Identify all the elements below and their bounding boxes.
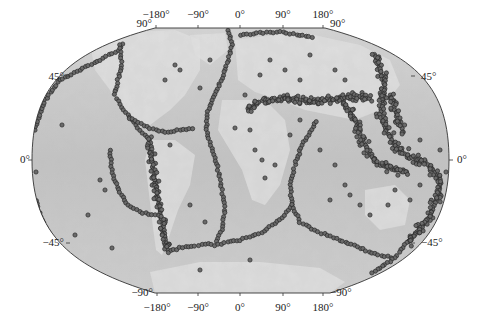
earthquake-dot — [110, 246, 114, 250]
earthquake-dot — [389, 100, 393, 104]
earthquake-dot — [198, 268, 202, 272]
earthquake-dot — [435, 169, 439, 173]
earthquake-dot — [45, 228, 49, 232]
earthquake-dot — [409, 244, 413, 248]
earthquake-dot — [368, 94, 372, 98]
earthquake-dot — [253, 148, 257, 152]
earthquake-dot — [353, 117, 357, 121]
earthquake-dot — [328, 101, 332, 105]
earthquake-dot — [288, 133, 292, 137]
bottom-lon-label-m180: −180° — [143, 302, 170, 313]
earthquake-dot — [273, 163, 277, 167]
bottom-lon-label-180: 180° — [313, 302, 334, 313]
earthquake-dot — [367, 139, 371, 143]
earthquake-dot — [376, 56, 380, 60]
earthquake-dot — [223, 211, 227, 215]
earthquake-dot — [365, 154, 369, 158]
earthquake-dot — [314, 120, 318, 124]
earthquake-dot — [298, 101, 302, 105]
earthquake-dot — [157, 197, 161, 201]
earthquake-dot — [34, 170, 38, 174]
earthquake-dot — [248, 128, 252, 132]
earthquake-dot — [400, 132, 404, 136]
earthquake-dot — [360, 142, 364, 146]
earthquake-dot — [435, 196, 439, 200]
earthquake-dot — [375, 160, 379, 164]
earthquake-dot — [392, 131, 396, 135]
earthquake-dot — [384, 122, 388, 126]
earthquake-dot — [152, 176, 156, 180]
earthquake-dot — [394, 147, 398, 151]
right-lat-label-45: 45° — [421, 71, 436, 82]
earthquake-dot — [198, 86, 202, 90]
earthquake-dot — [358, 203, 362, 207]
earthquake-dot — [221, 218, 225, 222]
earthquake-dot — [398, 124, 402, 128]
top-lon-label-0: 0° — [235, 9, 245, 20]
earthquake-dot — [223, 204, 227, 208]
earthquake-dot — [115, 182, 119, 186]
earthquake-dot — [370, 99, 374, 103]
earthquake-dot — [396, 173, 400, 177]
earthquake-dot — [318, 148, 322, 152]
top-lon-label-90: 90° — [275, 9, 290, 20]
earthquake-dot — [398, 250, 402, 254]
earthquake-dot — [418, 183, 422, 187]
earthquake-dot — [438, 180, 442, 184]
earthquake-dot — [208, 58, 212, 62]
earthquake-dot — [343, 183, 347, 187]
earthquake-dot — [333, 163, 337, 167]
earthquake-dot — [277, 98, 281, 102]
left-lat-label-m45: −45° — [42, 237, 64, 248]
top-lat-label-right: 90° — [330, 18, 345, 29]
earthquake-dot — [260, 158, 264, 162]
left-lat-label-45: 45° — [49, 71, 64, 82]
bottom-lon-label-0: 0° — [235, 302, 245, 313]
earthquake-dot — [216, 164, 220, 168]
earthquake-dot — [157, 220, 161, 224]
earthquake-dot — [297, 221, 301, 225]
earthquake-dot — [178, 68, 182, 72]
earthquake-dot — [286, 98, 290, 102]
earthquake-dot — [370, 271, 374, 275]
earthquake-dot — [258, 73, 262, 77]
earthquake-dot — [253, 99, 257, 103]
earthquake-dot — [406, 153, 410, 157]
earthquake-dot — [307, 99, 311, 103]
earthquake-dot — [98, 178, 102, 182]
earthquake-dot — [249, 109, 253, 113]
earthquake-dot — [356, 130, 360, 134]
earthquake-dot — [252, 106, 256, 110]
earthquake-dot — [268, 58, 272, 62]
earthquake-dot — [152, 197, 156, 201]
earthquake-dot — [438, 148, 442, 152]
world-seismicity-map — [0, 0, 480, 321]
earthquake-dot — [343, 78, 347, 82]
earthquake-dot — [418, 231, 422, 235]
earthquake-dot — [419, 158, 423, 162]
earthquake-dot — [168, 143, 172, 147]
earthquake-dot — [103, 188, 107, 192]
earthquake-dot — [310, 35, 314, 39]
earthquake-dot — [387, 126, 391, 130]
earthquake-dot — [147, 137, 151, 141]
earthquake-dot — [271, 99, 275, 103]
earthquake-dot — [159, 226, 163, 230]
earthquake-dot — [192, 244, 196, 248]
earthquake-dot — [300, 33, 304, 37]
earthquake-dot — [291, 167, 295, 171]
earthquake-dot — [377, 98, 381, 102]
earthquake-dot — [400, 151, 404, 155]
earthquake-dot — [350, 108, 354, 112]
earthquake-dot — [428, 200, 432, 204]
earthquake-dot — [218, 178, 222, 182]
earthquake-dot — [222, 241, 226, 245]
bottom-lon-label-90: 90° — [275, 302, 290, 313]
earthquake-dot — [283, 68, 287, 72]
earthquake-dot — [341, 93, 345, 97]
earthquake-dot — [438, 200, 442, 204]
earthquake-dot — [389, 106, 393, 110]
left-lat-label-0: 0° — [20, 154, 30, 165]
earthquake-dot — [396, 141, 400, 145]
earthquake-dot — [254, 31, 258, 35]
